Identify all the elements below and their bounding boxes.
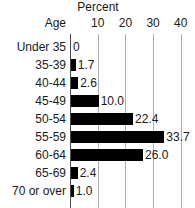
chart-row: 40-442.6	[0, 74, 195, 92]
x-tick-label: 40	[174, 16, 187, 30]
bar-value-label: 10.0	[101, 94, 124, 108]
category-label: 70 or over	[0, 184, 66, 198]
bar	[71, 77, 78, 89]
category-label: 55-59	[0, 130, 66, 144]
chart-title: Percent	[70, 0, 126, 14]
category-label: 65-69	[0, 166, 66, 180]
bar-value-label: 2.6	[80, 76, 97, 90]
category-label: 35-39	[0, 58, 66, 72]
chart-row: 70 or over1.0	[0, 182, 195, 200]
bar-value-label: 1.7	[78, 58, 95, 72]
category-label: 45-49	[0, 94, 66, 108]
bar-value-label: 26.0	[145, 148, 168, 162]
x-tick-label: 30	[146, 16, 159, 30]
category-label: 60-64	[0, 148, 66, 162]
bar-value-label: 22.4	[135, 112, 158, 126]
bar	[71, 113, 133, 125]
category-label: Under 35	[0, 40, 66, 54]
category-label: 40-44	[0, 76, 66, 90]
x-tick-label: 20	[119, 16, 132, 30]
chart-row: 65-692.4	[0, 164, 195, 182]
bar	[71, 185, 74, 197]
chart-row: 60-6426.0	[0, 146, 195, 164]
bar	[71, 167, 78, 179]
bar	[71, 59, 76, 71]
bar	[71, 149, 143, 161]
x-axis-tick-labels: 10203040	[0, 16, 195, 30]
chart-row: 35-391.7	[0, 56, 195, 74]
bar-value-label: 33.7	[166, 130, 189, 144]
bar	[71, 131, 164, 143]
bar	[71, 95, 99, 107]
bar-chart: Percent Age 10203040 Under 35035-391.740…	[0, 0, 195, 208]
plot-area: Under 35035-391.740-442.645-4910.050-542…	[0, 34, 195, 208]
x-tick-label: 10	[91, 16, 104, 30]
bar-value-label: 1.0	[76, 184, 93, 198]
chart-row: 45-4910.0	[0, 92, 195, 110]
category-label: 50-54	[0, 112, 66, 126]
bar-value-label: 2.4	[80, 166, 97, 180]
bar-value-label: 0	[73, 40, 80, 54]
chart-row: 50-5422.4	[0, 110, 195, 128]
chart-row: Under 350	[0, 38, 195, 56]
chart-row: 55-5933.7	[0, 128, 195, 146]
